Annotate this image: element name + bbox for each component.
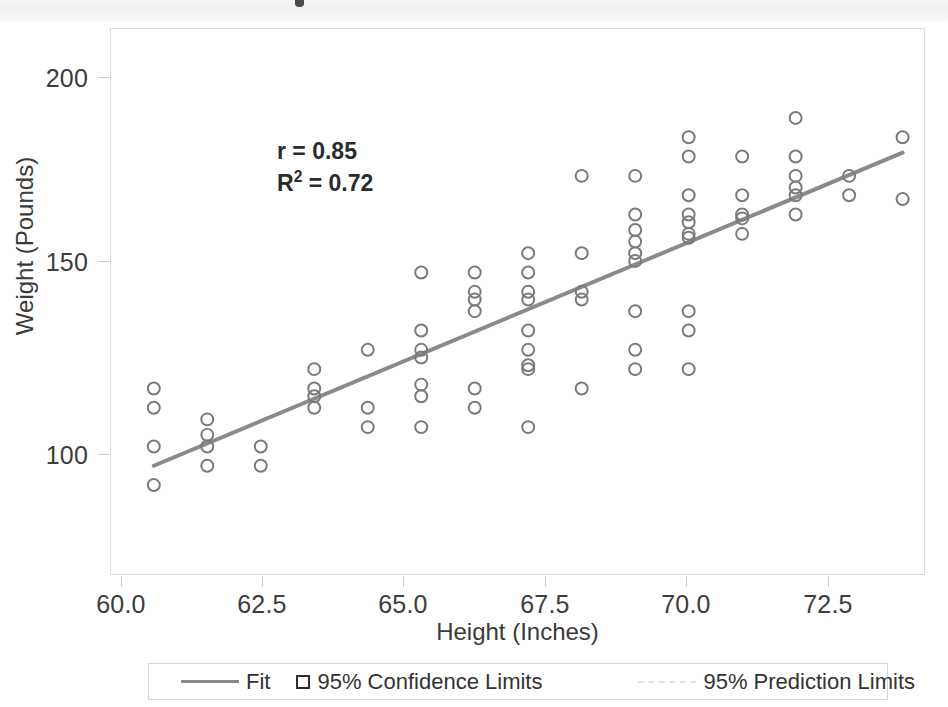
data-point: [629, 305, 641, 317]
data-point: [629, 170, 641, 182]
data-point: [255, 460, 267, 472]
x-tick-mark-72-5: [828, 576, 829, 587]
r-squared-suffix: = 0.72: [302, 170, 373, 196]
data-point: [415, 379, 427, 391]
x-tick-mark-65: [403, 576, 404, 587]
data-point: [469, 402, 481, 414]
data-point: [469, 382, 481, 394]
data-point: [522, 247, 534, 259]
data-point: [148, 382, 160, 394]
data-point: [148, 479, 160, 491]
data-point: [522, 294, 534, 306]
r-squared-prefix: R: [277, 170, 294, 196]
x-tick-label-67-5: 67.5: [520, 590, 569, 619]
data-point: [415, 390, 427, 402]
x-tick-label-62-5: 62.5: [237, 590, 286, 619]
x-tick-mark-62-5: [262, 576, 263, 587]
scan-artifact-band: [0, 0, 948, 22]
y-axis-title: Weight (Pounds): [11, 36, 39, 456]
y-tick-label-200: 200: [10, 64, 88, 93]
data-point: [415, 325, 427, 337]
data-point: [683, 131, 695, 143]
data-point: [362, 344, 374, 356]
data-point: [683, 151, 695, 163]
data-point: [469, 294, 481, 306]
data-point: [897, 193, 909, 205]
x-tick-label-72-5: 72.5: [803, 590, 852, 619]
r-value-text: r = 0.85: [277, 137, 373, 167]
data-point: [629, 209, 641, 221]
data-point: [201, 460, 213, 472]
y-tick-label-100: 100: [10, 441, 88, 470]
data-point: [790, 209, 802, 221]
data-point: [790, 112, 802, 124]
data-point: [576, 170, 588, 182]
data-point: [201, 429, 213, 441]
data-point: [790, 170, 802, 182]
data-point: [255, 440, 267, 452]
fit-line-swatch-icon: [181, 680, 239, 683]
x-tick-mark-70: [686, 576, 687, 587]
data-point: [629, 224, 641, 236]
data-point: [362, 421, 374, 433]
data-point: [362, 402, 374, 414]
x-tick-label-70: 70.0: [661, 590, 710, 619]
data-point: [790, 151, 802, 163]
data-point: [629, 236, 641, 248]
legend-label-prediction-limits: 95% Prediction Limits: [703, 669, 915, 695]
data-point: [308, 402, 320, 414]
data-point: [415, 421, 427, 433]
data-point: [522, 344, 534, 356]
data-point: [629, 344, 641, 356]
scan-speck-mark: [295, 0, 304, 7]
y-tick-label-150: 150: [10, 248, 88, 277]
scatter-plot-figure: Weight (Pounds) 200 150 100 60.0 62.5 65…: [0, 0, 948, 707]
legend-label-confidence-limits: 95% Confidence Limits: [317, 669, 542, 695]
prediction-dashed-swatch-icon: [638, 681, 696, 683]
data-point: [148, 402, 160, 414]
y-tick-mark-200: [98, 77, 109, 78]
data-point: [469, 267, 481, 279]
data-point: [469, 305, 481, 317]
data-point: [843, 189, 855, 201]
data-point: [415, 267, 427, 279]
data-point: [148, 440, 160, 452]
legend-label-fit: Fit: [246, 669, 270, 695]
data-point: [576, 247, 588, 259]
data-point: [522, 267, 534, 279]
data-point: [897, 131, 909, 143]
data-point: [576, 294, 588, 306]
plot-canvas: [111, 29, 924, 574]
data-point: [736, 189, 748, 201]
legend-item-prediction-limits[interactable]: 95% Prediction Limits: [638, 669, 915, 695]
data-point: [522, 421, 534, 433]
data-point: [736, 151, 748, 163]
data-point: [576, 382, 588, 394]
data-point: [683, 216, 695, 228]
data-point: [308, 363, 320, 375]
chart-legend: Fit 95% Confidence Limits 95% Prediction…: [148, 663, 888, 700]
data-point: [522, 325, 534, 337]
legend-item-fit[interactable]: Fit: [181, 669, 270, 695]
x-tick-label-65: 65.0: [378, 590, 427, 619]
data-point: [683, 363, 695, 375]
y-tick-mark-150: [98, 261, 109, 262]
data-point: [683, 325, 695, 337]
confidence-square-swatch-icon: [296, 675, 310, 689]
data-point: [629, 363, 641, 375]
x-axis-title: Height (Inches): [110, 618, 925, 646]
data-point: [683, 189, 695, 201]
r-squared-text: R2 = 0.72: [277, 167, 373, 199]
legend-item-confidence-limits[interactable]: 95% Confidence Limits: [296, 669, 542, 695]
x-tick-mark-67-5: [545, 576, 546, 587]
plot-area: r = 0.85 R2 = 0.72: [110, 28, 925, 575]
x-tick-mark-60: [121, 576, 122, 587]
x-tick-label-60: 60.0: [96, 590, 145, 619]
data-point: [683, 305, 695, 317]
correlation-annotation: r = 0.85 R2 = 0.72: [277, 137, 373, 198]
data-points-group: [148, 112, 909, 491]
y-tick-mark-100: [98, 454, 109, 455]
data-point: [736, 228, 748, 240]
data-point: [201, 413, 213, 425]
